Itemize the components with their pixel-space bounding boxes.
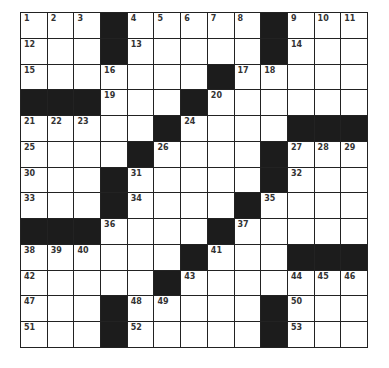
grid-cell[interactable] (288, 193, 314, 218)
grid-cell[interactable] (101, 245, 127, 270)
grid-cell[interactable] (154, 90, 180, 115)
grid-cell[interactable] (48, 296, 74, 321)
grid-cell[interactable]: 5 (154, 13, 180, 38)
grid-cell[interactable] (235, 142, 261, 167)
grid-cell[interactable] (208, 142, 234, 167)
grid-cell[interactable] (154, 219, 180, 244)
grid-cell[interactable] (48, 142, 74, 167)
grid-cell[interactable]: 32 (288, 168, 314, 193)
grid-cell[interactable] (154, 193, 180, 218)
grid-cell[interactable] (74, 142, 100, 167)
grid-cell[interactable]: 43 (181, 271, 207, 296)
grid-cell[interactable]: 9 (288, 13, 314, 38)
grid-cell[interactable] (74, 193, 100, 218)
grid-cell[interactable] (315, 322, 341, 347)
grid-cell[interactable] (154, 65, 180, 90)
grid-cell[interactable]: 52 (128, 322, 154, 347)
grid-cell[interactable]: 42 (21, 271, 47, 296)
grid-cell[interactable]: 4 (128, 13, 154, 38)
grid-cell[interactable]: 19 (101, 90, 127, 115)
grid-cell[interactable] (101, 142, 127, 167)
grid-cell[interactable] (341, 90, 367, 115)
grid-cell[interactable] (181, 142, 207, 167)
grid-cell[interactable]: 15 (21, 65, 47, 90)
grid-cell[interactable] (341, 322, 367, 347)
grid-cell[interactable] (48, 193, 74, 218)
grid-cell[interactable]: 34 (128, 193, 154, 218)
grid-cell[interactable] (128, 245, 154, 270)
grid-cell[interactable]: 37 (235, 219, 261, 244)
grid-cell[interactable]: 50 (288, 296, 314, 321)
grid-cell[interactable]: 7 (208, 13, 234, 38)
grid-cell[interactable] (74, 296, 100, 321)
grid-cell[interactable] (208, 39, 234, 64)
grid-cell[interactable] (235, 322, 261, 347)
grid-cell[interactable]: 27 (288, 142, 314, 167)
grid-cell[interactable] (154, 322, 180, 347)
grid-cell[interactable] (261, 271, 287, 296)
grid-cell[interactable]: 24 (181, 116, 207, 141)
grid-cell[interactable]: 40 (74, 245, 100, 270)
grid-cell[interactable] (235, 296, 261, 321)
grid-cell[interactable] (74, 65, 100, 90)
grid-cell[interactable]: 11 (341, 13, 367, 38)
grid-cell[interactable]: 36 (101, 219, 127, 244)
grid-cell[interactable]: 39 (48, 245, 74, 270)
grid-cell[interactable] (315, 193, 341, 218)
grid-cell[interactable]: 26 (154, 142, 180, 167)
grid-cell[interactable]: 14 (288, 39, 314, 64)
grid-cell[interactable]: 22 (48, 116, 74, 141)
grid-cell[interactable] (48, 39, 74, 64)
grid-cell[interactable] (315, 90, 341, 115)
grid-cell[interactable]: 31 (128, 168, 154, 193)
grid-cell[interactable] (341, 193, 367, 218)
grid-cell[interactable]: 18 (261, 65, 287, 90)
grid-cell[interactable]: 48 (128, 296, 154, 321)
grid-cell[interactable] (208, 193, 234, 218)
grid-cell[interactable]: 23 (74, 116, 100, 141)
grid-cell[interactable] (288, 90, 314, 115)
grid-cell[interactable] (74, 322, 100, 347)
grid-cell[interactable] (48, 271, 74, 296)
grid-cell[interactable]: 16 (101, 65, 127, 90)
grid-cell[interactable] (48, 168, 74, 193)
grid-cell[interactable]: 6 (181, 13, 207, 38)
grid-cell[interactable] (288, 219, 314, 244)
grid-cell[interactable]: 46 (341, 271, 367, 296)
grid-cell[interactable] (288, 65, 314, 90)
grid-cell[interactable]: 30 (21, 168, 47, 193)
grid-cell[interactable] (341, 168, 367, 193)
grid-cell[interactable] (208, 322, 234, 347)
grid-cell[interactable] (48, 65, 74, 90)
grid-cell[interactable] (48, 322, 74, 347)
grid-cell[interactable] (128, 65, 154, 90)
grid-cell[interactable] (181, 39, 207, 64)
grid-cell[interactable]: 1 (21, 13, 47, 38)
grid-cell[interactable]: 41 (208, 245, 234, 270)
grid-cell[interactable]: 17 (235, 65, 261, 90)
grid-cell[interactable] (261, 219, 287, 244)
grid-cell[interactable] (181, 219, 207, 244)
grid-cell[interactable]: 12 (21, 39, 47, 64)
grid-cell[interactable]: 44 (288, 271, 314, 296)
grid-cell[interactable] (128, 219, 154, 244)
grid-cell[interactable] (154, 168, 180, 193)
grid-cell[interactable]: 28 (315, 142, 341, 167)
grid-cell[interactable]: 25 (21, 142, 47, 167)
grid-cell[interactable] (315, 65, 341, 90)
grid-cell[interactable] (181, 322, 207, 347)
grid-cell[interactable] (128, 116, 154, 141)
grid-cell[interactable] (235, 168, 261, 193)
grid-cell[interactable] (341, 65, 367, 90)
grid-cell[interactable] (341, 39, 367, 64)
grid-cell[interactable]: 33 (21, 193, 47, 218)
grid-cell[interactable]: 8 (235, 13, 261, 38)
grid-cell[interactable]: 51 (21, 322, 47, 347)
grid-cell[interactable] (181, 65, 207, 90)
grid-cell[interactable]: 38 (21, 245, 47, 270)
grid-cell[interactable]: 2 (48, 13, 74, 38)
grid-cell[interactable] (208, 271, 234, 296)
grid-cell[interactable]: 3 (74, 13, 100, 38)
grid-cell[interactable] (261, 245, 287, 270)
grid-cell[interactable] (315, 219, 341, 244)
